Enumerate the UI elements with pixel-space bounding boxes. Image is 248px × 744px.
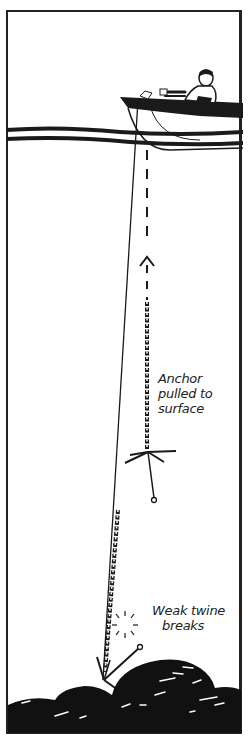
label-line: surface [158, 401, 238, 416]
up-arrow-icon [140, 257, 154, 266]
water-surface [6, 126, 243, 146]
label-line: Anchor [158, 371, 238, 386]
weak-twine-label: Weak twine breaks [152, 603, 247, 633]
snag-rocks [8, 660, 241, 733]
twine-break-burst-icon [112, 611, 138, 638]
label-line: breaks [152, 618, 247, 633]
label-line: Weak twine [152, 603, 247, 618]
anchor-pulled-label: Anchor pulled to surface [158, 371, 238, 416]
label-line: pulled to [158, 386, 238, 401]
raised-anchor-icon [125, 451, 176, 503]
trip-line [103, 100, 138, 680]
